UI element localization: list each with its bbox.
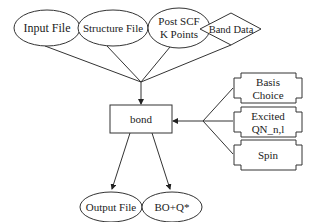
edge-basis-choice [203,88,233,121]
edge-spin [203,121,233,154]
label-band-data: Band Data [209,24,254,35]
label-structure-file: Structure File [83,22,143,34]
label-input-file: Input File [24,21,71,35]
edge-band-data [141,45,231,82]
option-edges [173,88,233,154]
label-basis: Basis [256,76,280,88]
node-input-file: Input File [14,10,80,46]
node-post-scf-k-points: Post SCF K Points [148,8,210,48]
node-band-data: Band Data [200,13,261,45]
edge-to-bo-q [152,133,170,189]
label-spin: Spin [258,149,279,161]
edge-to-output-file [112,133,130,189]
label-bond: bond [130,113,153,125]
label-bo-q: BO+Q* [155,201,190,213]
input-edges [45,45,231,104]
node-excited-qn: Excited QN_n,l [234,107,302,137]
edge-structure-file [107,46,141,82]
label-choice: Choice [252,89,283,101]
node-bond: bond [110,105,172,133]
edge-input-file [45,46,141,82]
label-k-points: K Points [160,28,198,40]
node-structure-file: Structure File [78,10,148,46]
node-spin: Spin [234,140,302,170]
edge-post-scf [141,47,170,82]
label-output-file: Output File [86,201,137,213]
output-edges [112,133,170,189]
node-output-file: Output File [80,192,142,222]
label-excited: Excited [251,110,285,122]
node-bo-q: BO+Q* [142,192,202,222]
label-qn: QN_n,l [252,123,285,135]
label-post-scf: Post SCF [158,15,199,27]
node-basis-choice: Basis Choice [234,73,302,103]
flow-diagram: Input File Structure File Post SCF K Poi… [0,0,312,222]
